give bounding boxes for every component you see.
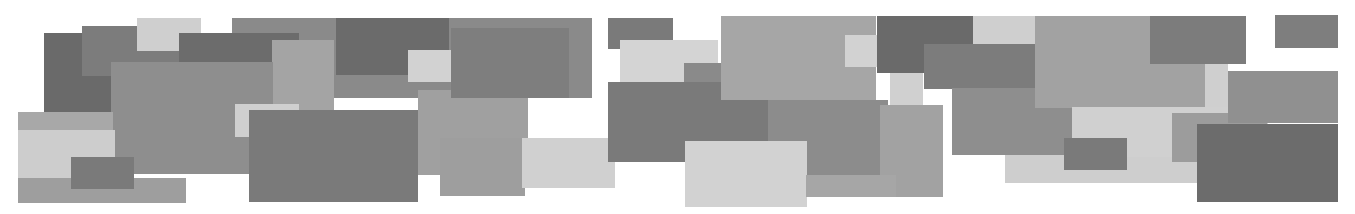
gray-rectangle [71, 157, 134, 189]
gray-rectangle [522, 138, 615, 188]
gray-rectangle [1228, 71, 1338, 123]
gray-rectangle [890, 73, 923, 105]
gray-rectangle [973, 16, 1035, 44]
gray-rectangle [806, 175, 896, 197]
gray-rectangle [1150, 16, 1246, 64]
gray-rectangle [1197, 124, 1338, 202]
gray-rectangle [1275, 15, 1338, 48]
gray-rectangle [685, 141, 807, 207]
gray-rectangle [924, 44, 1035, 89]
gray-rectangle [440, 138, 525, 196]
gray-rectangle [249, 110, 418, 202]
gray-rectangle [684, 63, 724, 83]
gray-rectangle [451, 28, 569, 98]
gray-rectangle [1064, 138, 1127, 170]
gray-rectangle [18, 112, 113, 132]
abstract-rectangles-artwork [0, 0, 1355, 214]
